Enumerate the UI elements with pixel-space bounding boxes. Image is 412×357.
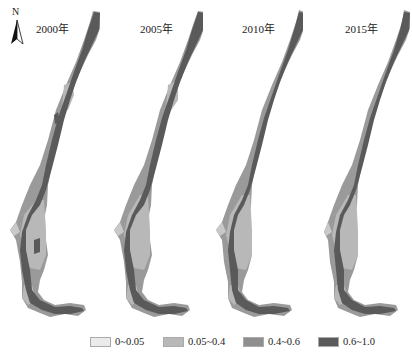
legend-label: 0.05~0.4: [188, 336, 225, 347]
lake-map-2015: [300, 0, 412, 325]
lake-map-2000: [0, 0, 103, 325]
map-panel-2000: 2000年: [0, 0, 103, 325]
legend-item-0.6-1.0: 0.6~1.0: [318, 336, 375, 347]
legend: 0~0.05 0.05~0.4 0.4~0.6 0.6~1.0: [0, 336, 412, 350]
legend-swatch: [318, 337, 339, 347]
legend-item-0-0.05: 0~0.05: [90, 336, 144, 347]
map-panel-2005: 2005年: [100, 0, 203, 325]
legend-label: 0.4~0.6: [268, 336, 300, 347]
legend-swatch: [90, 337, 111, 347]
map-panel-2010: 2010年: [200, 0, 303, 325]
lake-map-2010: [200, 0, 303, 325]
lake-map-2005: [100, 0, 203, 325]
map-panel-2015: 2015年: [300, 0, 403, 325]
legend-item-0.05-0.4: 0.05~0.4: [163, 336, 225, 347]
legend-label: 0.6~1.0: [343, 336, 375, 347]
map-figure: N 2000年 2005年: [0, 0, 412, 357]
legend-item-0.4-0.6: 0.4~0.6: [243, 336, 300, 347]
legend-label: 0~0.05: [115, 336, 144, 347]
legend-swatch: [163, 337, 184, 347]
legend-swatch: [243, 337, 264, 347]
